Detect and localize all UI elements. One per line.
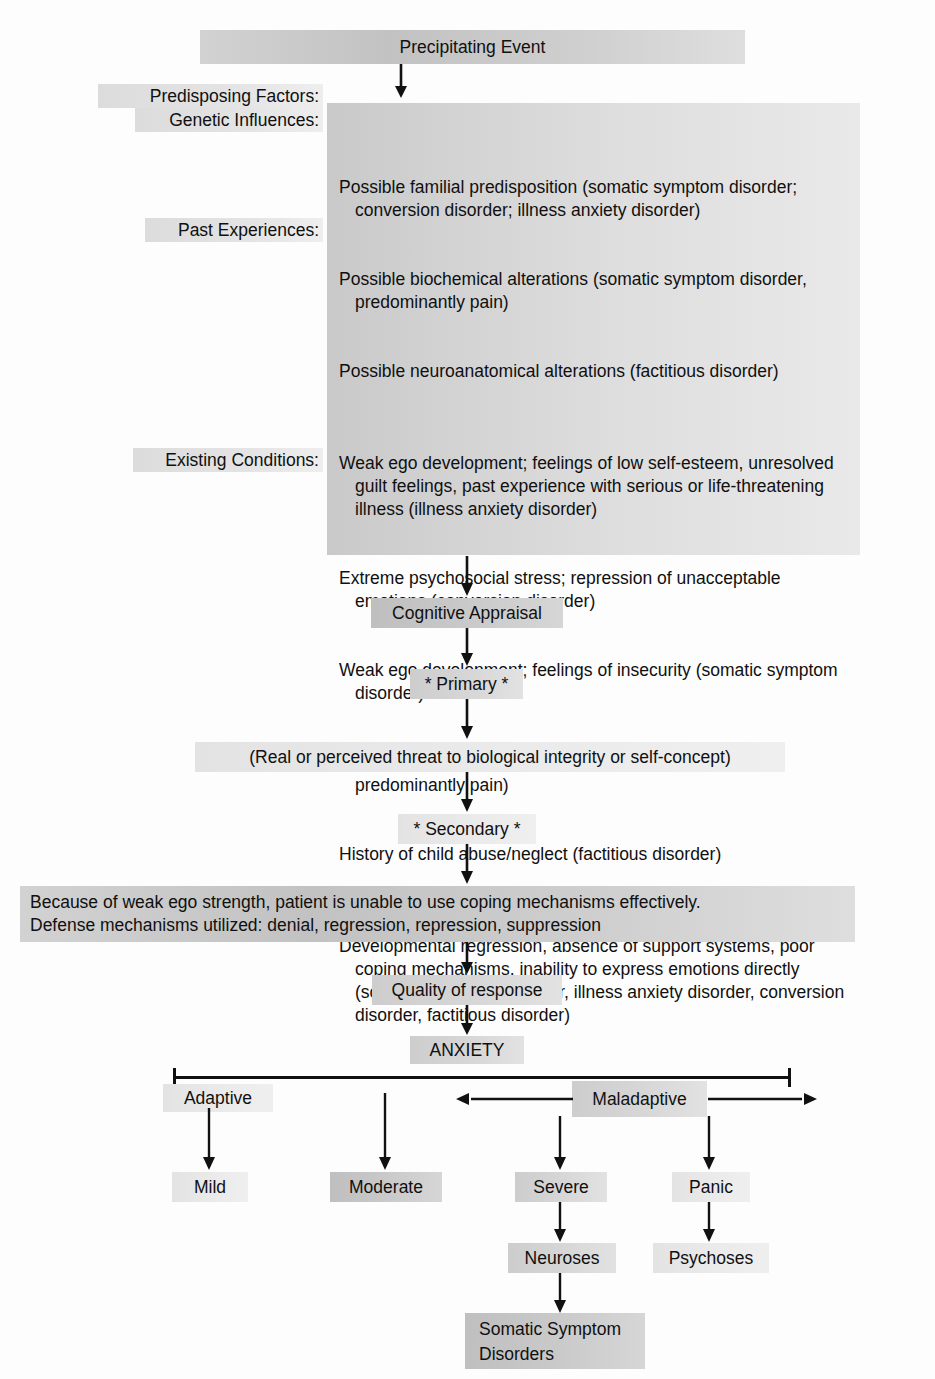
node-primary-threat-detail: (Real or perceived threat to biological … bbox=[195, 742, 785, 772]
node-anxiety: ANXIETY bbox=[410, 1036, 524, 1064]
arrow-left-maladaptive bbox=[455, 1088, 573, 1110]
node-quality-of-response: Quality of response bbox=[372, 975, 562, 1005]
arrow-down-to-primary-detail bbox=[458, 699, 476, 741]
arrow-down-to-psychoses bbox=[700, 1202, 718, 1244]
arrow-down-to-primary bbox=[458, 628, 476, 668]
node-cognitive-appraisal: Cognitive Appraisal bbox=[371, 598, 563, 628]
factors-block: Possible familial predisposition (somati… bbox=[327, 103, 860, 555]
arrow-down-to-quality bbox=[458, 942, 476, 976]
label-adaptive: Adaptive bbox=[163, 1084, 273, 1112]
node-precipitating-event: Precipitating Event bbox=[200, 30, 745, 64]
factor-past-1: Weak ego development; feelings of low se… bbox=[339, 452, 852, 521]
node-secondary-appraisal: * Secondary * bbox=[398, 814, 536, 844]
node-mild: Mild bbox=[172, 1172, 248, 1202]
factor-genetic-2: Possible biochemical alterations (somati… bbox=[339, 268, 852, 314]
arrow-down-to-mild bbox=[200, 1108, 218, 1172]
arrow-down-to-severe bbox=[551, 1116, 569, 1172]
node-neuroses: Neuroses bbox=[508, 1243, 616, 1273]
arrow-down-to-neuroses bbox=[551, 1202, 569, 1244]
arrow-down-to-panic bbox=[700, 1116, 718, 1172]
label-genetic-influences: Genetic Influences: bbox=[135, 108, 323, 132]
factor-genetic-3: Possible neuroanatomical alterations (fa… bbox=[339, 360, 852, 383]
node-primary-appraisal: * Primary * bbox=[410, 669, 523, 699]
node-secondary-detail: Because of weak ego strength, patient is… bbox=[20, 886, 855, 942]
arrow-down-to-somatic-symptom-disorders bbox=[551, 1273, 569, 1315]
arrow-down-precipitating bbox=[392, 64, 410, 100]
label-predisposing-factors: Predisposing Factors: bbox=[98, 84, 323, 108]
node-panic: Panic bbox=[672, 1172, 750, 1202]
label-maladaptive: Maladaptive bbox=[572, 1081, 707, 1117]
flowchart-canvas: Precipitating Event Predisposing Factors… bbox=[0, 0, 935, 1379]
arrow-down-to-secondary bbox=[458, 772, 476, 814]
continuum-bar bbox=[173, 1076, 791, 1079]
arrow-down-to-moderate bbox=[376, 1093, 394, 1172]
factor-genetic-1: Possible familial predisposition (somati… bbox=[339, 176, 852, 222]
factor-past-5: History of child abuse/neglect (factitio… bbox=[339, 843, 852, 866]
node-psychoses: Psychoses bbox=[653, 1243, 769, 1273]
arrow-down-to-cognitive-appraisal bbox=[458, 556, 476, 598]
label-existing-conditions: Existing Conditions: bbox=[133, 448, 323, 472]
node-moderate: Moderate bbox=[330, 1172, 442, 1202]
arrow-right-maladaptive bbox=[708, 1088, 818, 1110]
continuum-cap-right bbox=[788, 1068, 791, 1087]
node-severe: Severe bbox=[515, 1172, 607, 1202]
node-somatic-symptom-disorders: Somatic Symptom Disorders bbox=[465, 1313, 645, 1369]
label-past-experiences: Past Experiences: bbox=[145, 218, 323, 242]
arrow-down-to-secondary-detail bbox=[458, 844, 476, 886]
arrow-down-to-anxiety bbox=[458, 1005, 476, 1037]
